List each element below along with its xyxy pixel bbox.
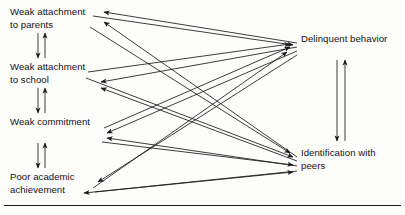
causal-path-diagram: Weak attachment to parents Weak attachme… (0, 0, 405, 215)
node-weak-attachment-to-parents: Weak attachment to parents (10, 6, 85, 31)
edge-peers-to-school (101, 88, 297, 161)
edge-commit-to-delinq (104, 47, 290, 128)
node-poor-academic-achievement: Poor academic achievement (10, 171, 75, 196)
edge-parents-to-delinq (93, 16, 293, 45)
edge-academic-to-peers (95, 172, 293, 192)
node-weak-commitment: Weak commitment (10, 116, 90, 129)
node-weak-attachment-to-school: Weak attachment to school (10, 61, 85, 86)
edge-school-to-delinq (88, 44, 290, 72)
edge-delinq-to-parents (104, 12, 297, 43)
edge-delinq-to-commit (107, 51, 297, 133)
edge-delinq-to-academic (98, 55, 297, 182)
edge-peers-to-parents (104, 22, 297, 157)
edge-parents-to-peers (90, 27, 290, 153)
node-identification-with-peers: Identification with peers (301, 147, 376, 172)
bottom-divider (4, 205, 401, 206)
node-delinquent-behavior: Delinquent behavior (301, 33, 387, 46)
